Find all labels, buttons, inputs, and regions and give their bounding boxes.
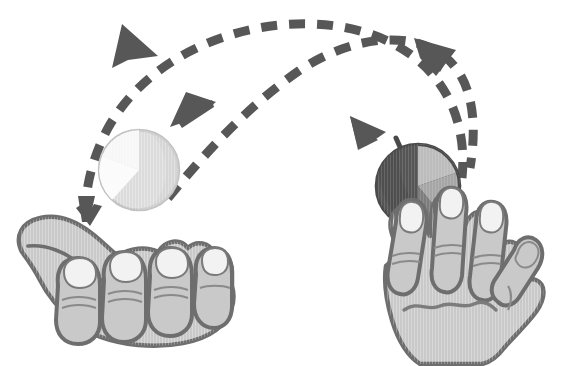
right-hand-nail-index [400,202,423,233]
left-hand-nail-little [202,248,228,275]
left-hand-nail-index [64,258,96,288]
scene-svg [0,0,577,366]
illustration-canvas: Two-hand ball toss illustration Grayscal… [0,0,577,366]
right-hand-nail-ring [480,202,503,233]
right-hand-nail-middle [440,188,463,219]
left-hand-nail-ring [156,248,188,278]
ball-light [99,130,179,210]
left-hand-nail-middle [110,252,142,282]
